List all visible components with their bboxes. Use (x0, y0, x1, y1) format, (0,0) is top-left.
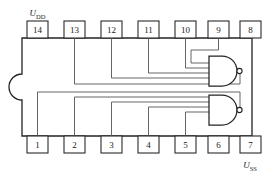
bottom-pin-row: 1 2 3 4 5 6 7 (27, 136, 261, 153)
schematic-canvas: 14 13 12 11 10 9 8 1 2 3 4 5 6 7 (0, 0, 274, 174)
supply-positive-label: UDD (30, 8, 46, 20)
supply-positive-subscript: DD (36, 13, 46, 20)
pin-11-label: 11 (144, 25, 153, 35)
pin-4-label: 4 (146, 140, 151, 150)
pin-10-label: 10 (181, 25, 191, 35)
supply-negative-subscript: SS (250, 165, 258, 172)
ic-pinout-diagram: 14 13 12 11 10 9 8 1 2 3 4 5 6 7 (0, 0, 274, 174)
pin-8-label: 8 (248, 25, 253, 35)
pin-9-label: 9 (216, 25, 221, 35)
pin-2-label: 2 (72, 140, 77, 150)
top-pin-row: 14 13 12 11 10 9 8 (27, 21, 261, 38)
nand-gate-upper-body (209, 56, 237, 86)
pin-5-label: 5 (183, 140, 188, 150)
pin-14-label: 14 (33, 25, 43, 35)
supply-negative-label: USS (243, 160, 257, 172)
pin-13-label: 13 (70, 25, 80, 35)
nand-gate-upper-bubble (237, 68, 242, 73)
pin-12-label: 12 (107, 25, 116, 35)
nand-gate-lower-body (209, 95, 237, 125)
pin-7-label: 7 (248, 140, 253, 150)
pin-6-label: 6 (216, 140, 221, 150)
pin-1-label: 1 (35, 140, 40, 150)
pin-3-label: 3 (109, 140, 114, 150)
nand-gate-lower-bubble (237, 107, 242, 112)
